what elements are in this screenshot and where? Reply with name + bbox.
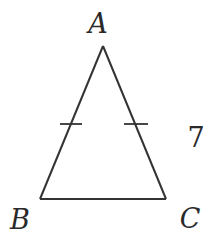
vertex-label-a: A [85, 8, 108, 39]
vertex-label-b: B [9, 204, 30, 235]
triangle-edges [40, 46, 166, 199]
edge-ab [40, 46, 103, 199]
vertex-label-c: C [180, 203, 201, 234]
triangle-diagram: A B C 7 [0, 0, 214, 240]
side-length-labels: 7 [187, 122, 204, 153]
vertex-labels: A B C [9, 8, 201, 235]
side-length-label-ac: 7 [187, 122, 204, 153]
edge-ac [103, 46, 166, 199]
